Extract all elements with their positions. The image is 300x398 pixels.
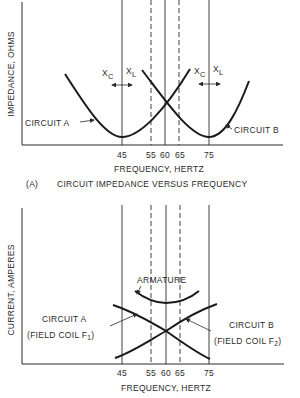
circuit-b-curve — [142, 70, 249, 137]
circuit-a-label: CIRCUIT A — [42, 314, 87, 324]
xc-label-b: XC — [194, 66, 206, 79]
circuit-a-curve — [65, 69, 190, 137]
armature-label: ARMATURE — [137, 275, 186, 285]
xl-label-a: XL — [126, 66, 136, 79]
xl-label-b: XL — [213, 64, 223, 77]
y-axis-label-b: CURRENT, AMPERES — [6, 244, 16, 335]
tick-label: 75 — [204, 368, 214, 378]
y-axis-label-a: IMPEDANCE, OHMS — [6, 31, 16, 116]
tick-label: 45 — [117, 368, 127, 378]
circuit-a-sublabel: (FIELD COIL F1) — [27, 330, 94, 341]
circuit-a-leader — [80, 120, 94, 122]
figure-a-impedance-chart: XC XL XC XL CIRCUIT A CIRCUIT B IMPEDANC… — [6, 0, 283, 189]
tick-label: 60 — [161, 368, 171, 378]
tick-label: 65 — [175, 368, 185, 378]
caption-letter: (A) — [26, 179, 38, 189]
tick-label: 55 — [146, 150, 156, 160]
armature-curve — [135, 291, 199, 303]
circuit-a-label: CIRCUIT A — [25, 118, 70, 128]
circuit-a-leader — [110, 314, 137, 326]
xc-label-a: XC — [102, 68, 114, 81]
diagram-canvas: XC XL XC XL CIRCUIT A CIRCUIT B IMPEDANC… — [0, 0, 300, 398]
x-axis-label-a: FREQUENCY, HERTZ — [114, 164, 204, 174]
circuit-b-label: CIRCUIT B — [234, 125, 279, 135]
tick-label: 60 — [160, 150, 170, 160]
tick-label: 55 — [146, 368, 156, 378]
circuit-b-label: CIRCUIT B — [229, 320, 274, 330]
circuit-b-leader — [186, 319, 211, 331]
circuit-b-sublabel: (FIELD COIL F2) — [214, 336, 281, 347]
x-axis-label-b: FREQUENCY, HERTZ — [121, 383, 211, 393]
tick-label: 45 — [117, 150, 127, 160]
figure-caption: CIRCUIT IMPEDANCE VERSUS FREQUENCY — [57, 179, 247, 189]
figure-b-current-chart: ARMATURE CIRCUIT A (FIELD COIL F1) CIRCU… — [6, 205, 284, 393]
tick-label: 65 — [175, 150, 185, 160]
tick-label: 75 — [204, 150, 214, 160]
